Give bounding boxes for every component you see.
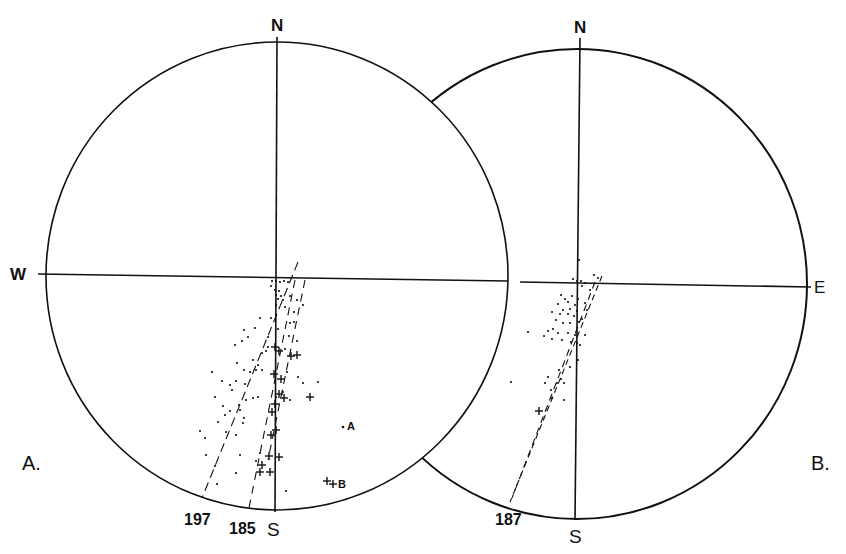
- pole-dot: [241, 340, 243, 342]
- pole-dot: [560, 378, 562, 380]
- pole-dot: [229, 384, 231, 386]
- pole-dot: [238, 404, 240, 406]
- pole-dot: [571, 295, 573, 297]
- pole-dot: [555, 319, 557, 321]
- great-circle-trace: [249, 280, 295, 508]
- pole-cross: [293, 351, 301, 359]
- point-a-marker: [342, 426, 345, 429]
- stereonet-figure: N W S A. 197 185 A B N E S B. 187: [0, 0, 846, 554]
- panel-b-label: B.: [811, 453, 830, 473]
- pole-dot: [267, 336, 269, 338]
- pole-dot: [275, 314, 277, 316]
- pole-dot: [552, 328, 554, 330]
- panel-b-east-label: E: [814, 279, 825, 296]
- pole-dot: [572, 278, 574, 280]
- pole-dot: [543, 335, 545, 337]
- pole-dot: [282, 299, 284, 301]
- pole-dot: [243, 417, 245, 419]
- pole-dot: [217, 421, 219, 423]
- pole-dot: [289, 295, 291, 297]
- pole-dot: [586, 309, 588, 311]
- pole-dot: [288, 335, 290, 337]
- trace-label-187: 187: [495, 512, 522, 528]
- pole-dot: [257, 396, 259, 398]
- pole-dot: [317, 381, 319, 383]
- pole-dot: [239, 454, 241, 456]
- pole-cross: [306, 393, 314, 401]
- pole-dot: [581, 285, 583, 287]
- pole-dot: [245, 399, 247, 401]
- pole-dot: [578, 259, 580, 261]
- pole-dot: [279, 281, 281, 283]
- pole-dot: [289, 399, 291, 401]
- pole-cross: [270, 370, 278, 378]
- pole-dot: [544, 382, 546, 384]
- pole-dot: [576, 280, 578, 282]
- pole-cross: [256, 468, 264, 476]
- stereonet-b-ns-axis: [575, 38, 580, 520]
- pole-dot: [302, 304, 304, 306]
- pole-dot: [243, 369, 245, 371]
- great-circle-traces: [202, 262, 602, 508]
- pole-dot: [567, 332, 569, 334]
- pole-dot: [510, 381, 512, 383]
- panel-b-pole-dots: [510, 259, 599, 401]
- pole-dot: [282, 391, 284, 393]
- panel-a-label: A.: [22, 453, 41, 473]
- pole-dot: [243, 329, 245, 331]
- pole-dot: [578, 321, 580, 323]
- pole-dot: [286, 371, 288, 373]
- pole-dot: [239, 409, 241, 411]
- pole-dot: [567, 313, 569, 315]
- pole-dot: [235, 380, 237, 382]
- pole-dot: [244, 383, 246, 385]
- pole-dot: [584, 302, 586, 304]
- pole-cross: [271, 343, 279, 351]
- pole-dot: [593, 274, 595, 276]
- pole-dot: [235, 472, 237, 474]
- pole-dot: [242, 422, 244, 424]
- point-b-label: B: [338, 479, 346, 490]
- pole-dot: [271, 280, 273, 282]
- pole-dot: [576, 310, 578, 312]
- pole-dot: [296, 340, 298, 342]
- pole-dot: [231, 389, 233, 391]
- pole-dot: [563, 382, 565, 384]
- trace-label-197: 197: [184, 512, 211, 528]
- pole-dot: [275, 294, 277, 296]
- pole-dot: [261, 369, 263, 371]
- pole-dot: [581, 318, 583, 320]
- panel-a-south-label: S: [267, 520, 280, 539]
- pole-dot: [547, 376, 549, 378]
- pole-cross: [265, 452, 273, 460]
- pole-dot: [560, 294, 562, 296]
- pole-dot: [563, 399, 565, 401]
- pole-dot: [275, 280, 277, 282]
- pole-dot: [562, 309, 564, 311]
- pole-dot: [577, 298, 579, 300]
- pole-dot: [259, 317, 261, 319]
- pole-dot: [289, 322, 291, 324]
- pole-dot: [573, 315, 575, 317]
- pole-dot: [267, 346, 269, 348]
- pole-dot: [569, 322, 571, 324]
- pole-dot: [216, 483, 218, 485]
- great-circle-trace: [512, 282, 595, 498]
- pole-dot: [569, 308, 571, 310]
- pole-dot: [236, 362, 238, 364]
- pole-dot: [270, 285, 272, 287]
- pole-dot: [280, 295, 282, 297]
- pole-dot: [275, 396, 277, 398]
- stereonet-a-ns-axis: [275, 37, 277, 512]
- pole-dot: [580, 280, 582, 282]
- pole-dot: [265, 350, 267, 352]
- great-circle-trace: [510, 276, 602, 502]
- pole-cross: [287, 352, 295, 360]
- pole-dot: [234, 344, 236, 346]
- pole-dot: [597, 277, 599, 279]
- pole-dot: [252, 359, 254, 361]
- pole-dot: [584, 334, 586, 336]
- pole-dot: [293, 321, 295, 323]
- pole-dot: [558, 369, 560, 371]
- stereonet-b-we-axis: [520, 282, 811, 287]
